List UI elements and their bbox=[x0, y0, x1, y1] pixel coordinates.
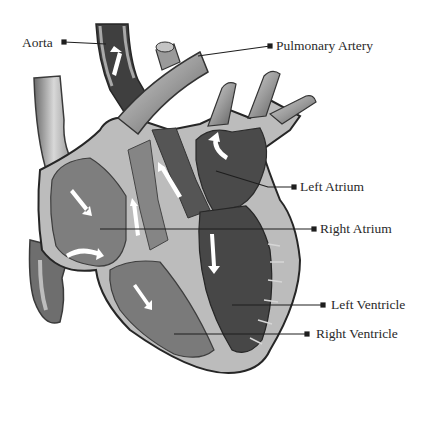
label-pulmonary-artery: Pulmonary Artery bbox=[276, 39, 373, 53]
label-left-ventricle: Left Ventricle bbox=[331, 298, 405, 312]
label-right-ventricle: Right Ventricle bbox=[316, 327, 398, 341]
heart-diagram: Aorta Pulmonary Artery Left Atrium Right… bbox=[0, 0, 443, 423]
label-left-atrium: Left Atrium bbox=[300, 180, 364, 194]
label-right-atrium: Right Atrium bbox=[320, 222, 392, 236]
leader-pulmonary-artery bbox=[198, 46, 270, 56]
heart-illustration bbox=[0, 0, 443, 423]
label-aorta: Aorta bbox=[22, 36, 53, 50]
